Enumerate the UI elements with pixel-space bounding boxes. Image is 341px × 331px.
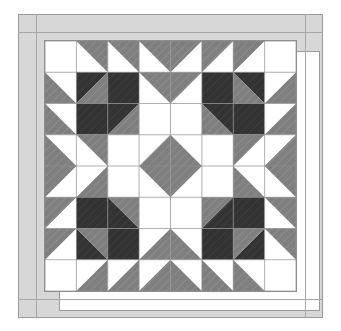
unit-r1-c8 <box>265 41 296 72</box>
unit-r2-c3 <box>108 72 139 103</box>
unit-r4-c6 <box>202 135 233 166</box>
unit-r6-c5 <box>171 197 202 228</box>
unit-r3-c5 <box>171 104 202 135</box>
unit-r3-c2 <box>76 104 107 135</box>
border-mitre-seam-bottom <box>18 299 323 300</box>
unit-r8-c8 <box>265 260 296 291</box>
unit-r3-c7 <box>233 104 264 135</box>
unit-r7-c6 <box>202 229 233 260</box>
unit-r7-c3 <box>108 229 139 260</box>
unit-r5-c3 <box>108 166 139 197</box>
border-mitre-seam-left <box>36 14 37 318</box>
block-canvas <box>45 41 296 291</box>
quilt-diagram <box>0 0 341 331</box>
unit-r6-c2 <box>76 197 107 228</box>
border-mitre-seam-top <box>18 32 323 33</box>
unit-r3-c4 <box>139 104 170 135</box>
unit-r1-c1 <box>45 41 76 72</box>
unit-r5-c6 <box>202 166 233 197</box>
unit-r6-c7 <box>233 197 264 228</box>
pieced-block <box>44 40 297 292</box>
unit-r8-c1 <box>45 260 76 291</box>
unit-r6-c4 <box>139 197 170 228</box>
unit-r4-c3 <box>108 135 139 166</box>
unit-r2-c6 <box>202 72 233 103</box>
border-mitre-seam-right <box>305 14 306 318</box>
